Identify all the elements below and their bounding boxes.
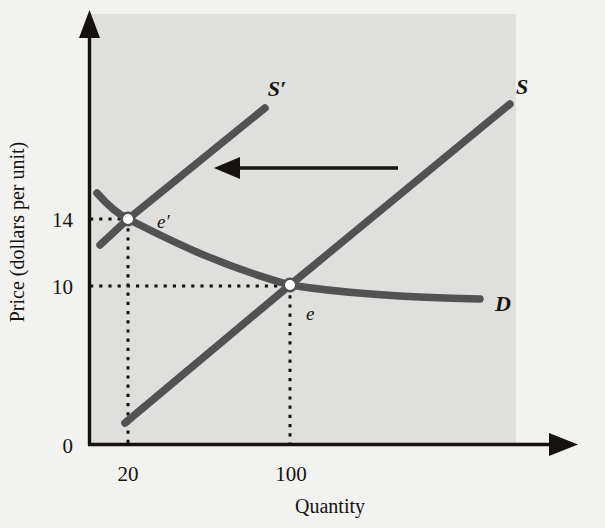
supply-demand-chart: 14 10 0 20 100 S′ S D e′ e Quantity Pric…	[0, 0, 605, 528]
y-tick-label-10: 10	[52, 275, 73, 299]
x-axis-title: Quantity	[295, 495, 365, 518]
equilibrium-point-old-marker	[284, 279, 296, 291]
figure-canvas: 14 10 0 20 100 S′ S D e′ e Quantity Pric…	[0, 0, 605, 528]
y-tick-label-14: 14	[52, 208, 74, 232]
equilibrium-old-label: e	[306, 303, 314, 324]
supply-label: S	[516, 74, 528, 99]
equilibrium-new-label: e′	[157, 211, 170, 232]
supply-shifted-label: S′	[268, 76, 286, 101]
x-tick-label-100: 100	[275, 462, 307, 486]
demand-label: D	[494, 291, 511, 316]
y-axis-title: Price (dollars per unit)	[6, 142, 29, 323]
equilibrium-point-new-marker	[122, 213, 134, 225]
origin-label: 0	[63, 434, 74, 458]
x-tick-label-20: 20	[118, 462, 139, 486]
